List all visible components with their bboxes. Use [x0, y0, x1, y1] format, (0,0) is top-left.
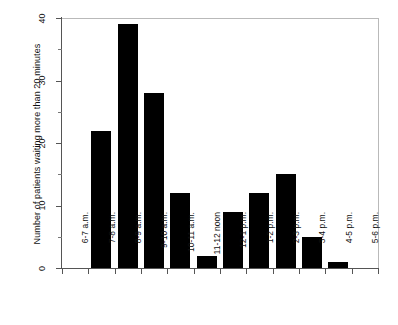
- y-tick-label-20: 20: [37, 131, 48, 155]
- x-tick-label: 10-11 a.m.: [185, 212, 197, 276]
- x-tick-label: 3-4 p.m.: [316, 212, 328, 276]
- x-tick-label: 12-1 p.m.: [237, 212, 249, 276]
- x-tick-label: 6-7 a.m.: [79, 212, 91, 276]
- y-minor-tick-25: [58, 112, 62, 113]
- y-tick-label-10: 10: [37, 194, 48, 218]
- x-tick-label: 7-8 a.m.: [106, 212, 118, 276]
- y-minor-tick-5: [58, 237, 62, 238]
- x-tick-label: 1-2 p.m.: [264, 212, 276, 276]
- x-tick: [62, 269, 63, 274]
- y-tick-20: [56, 143, 62, 144]
- x-tick-label: 2-3 p.m.: [290, 212, 302, 276]
- bar-chart: Number of patients waiting more than 20 …: [0, 0, 398, 325]
- x-tick-label: 4-5 p.m.: [343, 212, 355, 276]
- y-tick-40: [56, 18, 62, 19]
- y-tick-label-40: 40: [37, 6, 48, 30]
- x-tick-label: 5-6 p.m.: [369, 212, 381, 276]
- y-tick-10: [56, 206, 62, 207]
- x-tick-label: 9-10 a.m.: [158, 212, 170, 276]
- y-tick-label-30: 30: [37, 69, 48, 93]
- y-minor-tick-35: [58, 49, 62, 50]
- x-tick-label: 8-9 a.m.: [132, 212, 144, 276]
- x-tick-label: 11-12 noon: [211, 212, 223, 276]
- y-tick-label-0: 0: [37, 256, 48, 280]
- y-tick-30: [56, 81, 62, 82]
- y-minor-tick-15: [58, 174, 62, 175]
